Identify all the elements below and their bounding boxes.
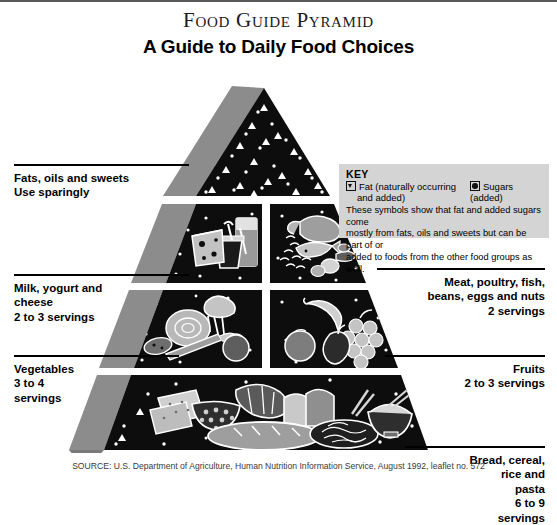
label-fruits: Fruits 2 to 3 servings — [385, 355, 545, 391]
label-line: cheese — [14, 295, 189, 309]
label-servings: 2 to 3 servings — [385, 376, 545, 390]
label-line: pasta — [405, 482, 545, 496]
key-note-line: added to foods from the other food group… — [346, 252, 543, 275]
key-fat-label-cont: and added) — [346, 192, 471, 203]
label-line: Vegetables — [14, 362, 179, 376]
key-note-line: mostly from fats, oils and sweets but ca… — [346, 228, 543, 251]
label-rule — [14, 274, 189, 276]
label-vegetables: Vegetables 3 to 4 servings — [14, 355, 179, 405]
label-rule — [14, 164, 189, 166]
key-item-sugars: Sugars (added) — [470, 181, 543, 204]
label-line: beans, eggs and nuts — [377, 289, 545, 303]
label-servings: 2 to 3 servings — [14, 310, 189, 324]
label-servings: servings — [405, 511, 545, 525]
label-line: Fats, oils and sweets — [14, 171, 189, 185]
key-fat-label: Fat (naturally occurring — [359, 181, 456, 192]
label-fats-oils-sweets: Fats, oils and sweets Use sparingly — [14, 164, 189, 200]
page-subtitle: A Guide to Daily Food Choices — [0, 36, 557, 58]
label-bread-cereal-rice-pasta: Bread, cereal, rice and pasta 6 to 9 ser… — [405, 446, 545, 525]
key-note-line: These symbols show that fat and added su… — [346, 205, 543, 228]
label-milk-yogurt-cheese: Milk, yogurt and cheese 2 to 3 servings — [14, 274, 189, 324]
label-servings: servings — [14, 391, 179, 405]
key-legend: KEY Fat (naturally occurring and added) … — [339, 164, 549, 238]
label-rule — [405, 446, 545, 448]
source-citation: SOURCE: U.S. Department of Agriculture, … — [0, 461, 557, 471]
label-servings: 6 to 9 — [405, 496, 545, 510]
label-rule — [385, 355, 545, 357]
top-divider — [0, 0, 557, 2]
key-note: These symbols show that fat and added su… — [346, 205, 543, 275]
open-triangle-icon — [346, 181, 356, 191]
label-line: Use sparingly — [14, 185, 189, 199]
key-item-fat: Fat (naturally occurring and added) — [346, 181, 471, 204]
label-line: Milk, yogurt and — [14, 281, 189, 295]
pyramid-diagram: Fats, oils and sweets Use sparingly Milk… — [0, 78, 557, 453]
label-line: Meat, poultry, fish, — [377, 275, 545, 289]
page-title: Food Guide Pyramid — [0, 8, 557, 33]
filled-circle-icon — [470, 181, 480, 191]
label-line: Fruits — [385, 362, 545, 376]
label-servings: 3 to 4 — [14, 376, 179, 390]
label-rule — [14, 355, 179, 357]
label-servings: 2 servings — [377, 304, 545, 318]
label-meat-beans-eggs-nuts: Meat, poultry, fish, beans, eggs and nut… — [377, 268, 545, 318]
key-heading: KEY — [346, 168, 543, 180]
